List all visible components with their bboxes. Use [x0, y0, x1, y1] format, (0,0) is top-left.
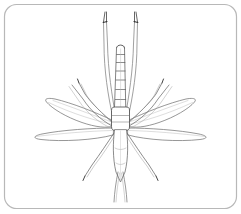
thorax — [112, 107, 130, 131]
head — [117, 45, 125, 48]
segmented-abdomen — [115, 45, 126, 110]
figure-frame: Insect line drawing mayfly-like insect, … — [0, 0, 241, 214]
insect-diagram: Insect line drawing mayfly-like insect, … — [0, 0, 241, 214]
